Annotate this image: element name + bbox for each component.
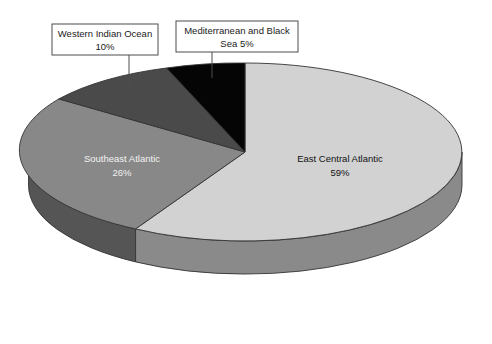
east-central-atlantic-label-line1: East Central Atlantic: [297, 153, 383, 164]
callout-mediterranean-black-sea-line1: Mediterranean and Black: [184, 25, 290, 36]
callout-mediterranean-black-sea-line2: Sea 5%: [220, 38, 254, 49]
southeast-atlantic-label-line2: 26%: [112, 167, 132, 178]
callout-western-indian-ocean-line2: 10%: [95, 41, 115, 52]
pie-chart-svg: Southeast Atlantic 26% East Central Atla…: [0, 0, 492, 344]
callout-western-indian-ocean[interactable]: Western Indian Ocean 10%: [52, 24, 158, 55]
callout-mediterranean-black-sea[interactable]: Mediterranean and Black Sea 5%: [176, 21, 298, 52]
pie-chart-figure: Southeast Atlantic 26% East Central Atla…: [0, 0, 492, 344]
callout-western-indian-ocean-line1: Western Indian Ocean: [58, 28, 152, 39]
east-central-atlantic-label-line2: 59%: [330, 167, 350, 178]
southeast-atlantic-label-line1: Southeast Atlantic: [84, 153, 160, 164]
pie-top-faces: [19, 63, 461, 241]
